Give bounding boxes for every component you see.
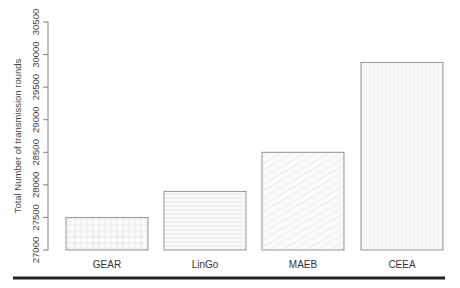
- y-tick-label: 27000: [30, 237, 41, 263]
- bars-group: [66, 62, 443, 250]
- bar-chart: Total Number of transmission rounds 2700…: [0, 0, 460, 288]
- x-category-label: LinGo: [192, 259, 219, 270]
- baseline-rule: [13, 277, 445, 280]
- y-axis: 2700027500280002850029000295003000030500: [30, 9, 48, 263]
- y-tick-label: 29000: [30, 107, 41, 133]
- y-tick-label: 30500: [30, 9, 41, 35]
- bar-lingo: [164, 191, 246, 250]
- y-tick-label: 28000: [30, 172, 41, 198]
- y-tick-label: 27500: [30, 204, 41, 230]
- y-tick-label: 28500: [30, 139, 41, 165]
- y-tick-label: 29500: [30, 74, 41, 100]
- category-labels: GEARLinGoMAEBCEEA: [93, 259, 416, 270]
- x-category-label: GEAR: [93, 259, 121, 270]
- bar-maeb: [262, 152, 344, 250]
- x-category-label: CEEA: [388, 259, 416, 270]
- y-tick-label: 30000: [30, 41, 41, 67]
- x-category-label: MAEB: [289, 259, 318, 270]
- bar-ceea: [361, 62, 443, 250]
- bar-gear: [66, 217, 148, 250]
- y-axis-label: Total Number of transmission rounds: [12, 58, 23, 213]
